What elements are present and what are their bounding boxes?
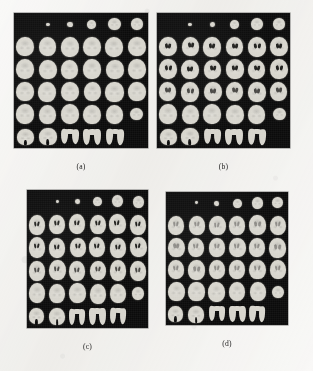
ventricle-marking [75, 244, 80, 249]
brain-tissue-texture [83, 37, 101, 56]
slice-cell [103, 13, 125, 36]
brain-slice [109, 308, 126, 325]
brain-slice [188, 305, 204, 322]
ventricle-marking [95, 267, 100, 272]
brain-slice [109, 214, 126, 235]
brain-tissue-texture [233, 199, 242, 208]
brain-tissue-texture [38, 59, 57, 79]
brain-slice [168, 238, 185, 258]
brain-slice [249, 238, 265, 257]
brain-slice [128, 82, 146, 102]
brain-slice [67, 22, 73, 27]
slice-cell [14, 13, 36, 36]
slice-cell [157, 103, 179, 126]
brain-tissue-texture [249, 282, 265, 301]
ventricle-marking [75, 267, 81, 272]
slice-cell [126, 58, 148, 81]
slice-cell [247, 214, 267, 236]
brain-tissue-texture [83, 104, 101, 124]
ventricle-marking [55, 221, 60, 226]
brain-slice-lobe [231, 306, 243, 312]
slice-cell [27, 259, 47, 282]
brain-slice [210, 22, 216, 27]
brain-slice [105, 59, 123, 79]
brain-tissue-texture [16, 82, 34, 102]
brain-tissue-texture [132, 287, 144, 300]
brain-tissue-texture [131, 18, 143, 30]
slice-cell [201, 103, 223, 126]
brain-slice [203, 37, 222, 57]
brain-tissue-texture [270, 82, 288, 102]
slice-cell [81, 81, 103, 104]
slice-cell [186, 192, 206, 214]
slice-cell [36, 13, 58, 36]
brain-tissue-texture [16, 59, 34, 79]
slice-cell [108, 236, 128, 259]
brain-slice [69, 238, 85, 257]
slice-cell [81, 103, 103, 126]
brain-slice [226, 104, 244, 124]
brain-slice [208, 282, 225, 302]
ventricle-marking [276, 65, 282, 70]
brain-slice [69, 308, 85, 324]
brain-slice [29, 308, 44, 325]
brain-slice [208, 215, 225, 235]
brain-tissue-texture [188, 238, 205, 258]
ventricle-marking [95, 244, 101, 249]
brain-slice [110, 284, 126, 304]
slice-cell [67, 282, 87, 305]
brain-slice [29, 283, 46, 304]
slice-cell [126, 103, 148, 126]
brain-slice [188, 260, 205, 280]
brain-slice-lobe [91, 308, 103, 314]
ventricle-marking [187, 88, 193, 93]
brain-slice [132, 195, 143, 207]
brain-slice [249, 282, 265, 301]
brain-slice [39, 105, 57, 124]
brain-tissue-texture [272, 108, 285, 121]
brain-tissue-texture [159, 104, 178, 124]
brain-slice-lobe [85, 129, 98, 135]
slice-cell [126, 126, 148, 149]
slice-cell [268, 303, 288, 325]
brain-slice [182, 105, 199, 124]
slice-cell [126, 36, 148, 59]
brain-slice [270, 59, 288, 79]
brain-slice [105, 82, 123, 102]
brain-slice [249, 215, 266, 235]
slice-cell [81, 36, 103, 59]
brain-tissue-texture [105, 82, 123, 102]
ventricle-marking [275, 222, 281, 227]
brain-slice [203, 82, 221, 102]
brain-slice [110, 260, 126, 280]
ventricle-marking [34, 221, 40, 226]
brain-slice [49, 260, 66, 281]
slice-cell [166, 303, 186, 325]
brain-tissue-texture [128, 59, 147, 79]
brain-tissue-texture [270, 37, 288, 57]
brain-slice [49, 215, 65, 234]
ventricle-marking [187, 43, 193, 48]
brain-tissue-texture [273, 18, 285, 30]
slice-cell [246, 58, 268, 81]
slice-cell [67, 305, 87, 328]
slice-cell [87, 236, 107, 259]
brain-slice [87, 20, 97, 29]
ventricle-marking [135, 221, 141, 226]
slice-cell [227, 303, 247, 325]
brain-tissue-texture [182, 37, 199, 56]
brain-tissue-texture [188, 216, 204, 235]
ventricle-marking [275, 244, 281, 249]
slice-cell [81, 13, 103, 36]
brain-slice [209, 260, 225, 279]
brain-slice [160, 129, 177, 145]
slice-cell [157, 126, 179, 149]
slice-cell [47, 259, 67, 282]
brain-slice [83, 37, 101, 56]
brain-slice [226, 37, 243, 56]
ventricle-marking [254, 88, 260, 93]
ventricle-marking [255, 244, 261, 249]
ventricle-marking [234, 266, 240, 271]
brain-tissue-texture [229, 282, 245, 301]
brain-slice [248, 129, 266, 145]
